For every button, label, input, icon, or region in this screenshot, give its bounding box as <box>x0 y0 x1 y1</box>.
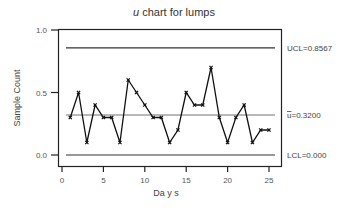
data-markers <box>69 66 271 144</box>
x-axis: 0510152025 <box>60 167 274 185</box>
x-tick-label: 10 <box>140 176 149 185</box>
chart-title: u chart for lumps <box>133 6 215 18</box>
center-label: u=0.3200 <box>287 111 321 120</box>
y-axis-label: Sample Count <box>12 69 22 127</box>
lcl-label: LCL=0.000 <box>287 151 327 160</box>
plot-frame <box>59 30 282 167</box>
x-tick-label: 15 <box>182 176 191 185</box>
x-axis-label: Da y s <box>153 188 179 198</box>
ucl-label: UCL=0.8567 <box>287 44 333 53</box>
x-tick-label: 20 <box>223 176 232 185</box>
x-tick-label: 25 <box>265 176 274 185</box>
y-tick-label: 0.5 <box>36 89 48 98</box>
data-series-line <box>70 68 269 143</box>
x-tick-label: 5 <box>101 176 106 185</box>
y-axis: 0.00.51.0 <box>36 26 58 160</box>
u-chart: u chart for lumps 0.00.51.0 0510152025 S… <box>0 0 348 209</box>
y-tick-label: 0.0 <box>36 151 48 160</box>
y-tick-label: 1.0 <box>36 26 48 35</box>
x-tick-label: 0 <box>60 176 65 185</box>
